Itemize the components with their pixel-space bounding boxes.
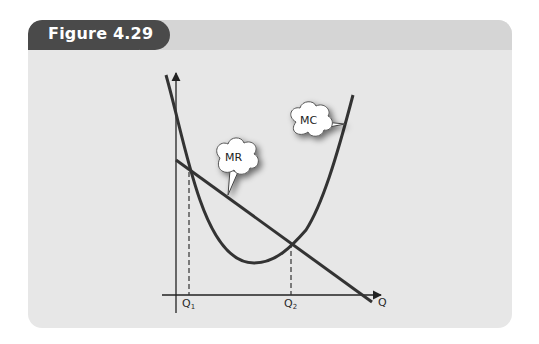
diagram: MR MC Q1 Q2 Q xyxy=(0,0,539,344)
mr-label: MR xyxy=(225,151,242,164)
mr-curve xyxy=(176,160,372,302)
q2-label: Q2 xyxy=(284,297,297,311)
x-axis-label: Q xyxy=(378,296,387,309)
mc-label: MC xyxy=(300,114,317,127)
q1-label: Q1 xyxy=(182,297,195,311)
mc-callout xyxy=(291,102,345,137)
mc-curve xyxy=(166,75,353,263)
mr-callout xyxy=(217,138,259,195)
